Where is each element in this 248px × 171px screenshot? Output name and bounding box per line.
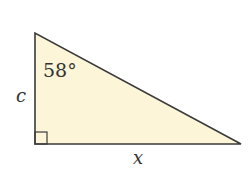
triangle-diagram: 58° c x xyxy=(0,0,248,171)
side-c-label: c xyxy=(16,85,26,106)
angle-label: 58° xyxy=(43,59,77,81)
triangle-shape xyxy=(35,33,241,144)
triangle-figure: 58° c x xyxy=(0,0,248,171)
side-x-label: x xyxy=(133,147,143,168)
